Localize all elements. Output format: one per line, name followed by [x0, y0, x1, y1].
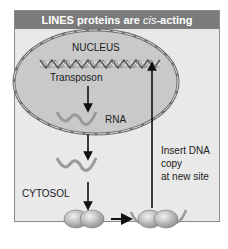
insert-label-line1: Insert DNA [161, 145, 210, 157]
dna-helix-icon [40, 60, 160, 68]
rna-cytosol-icon [57, 158, 96, 170]
ribosome-icon [64, 210, 104, 228]
cytosol-label: CYTOSOL [22, 188, 70, 200]
rna-label: RNA [105, 114, 126, 126]
nucleus-label: NUCLEUS [72, 42, 120, 54]
transposon-label: Transposon [50, 72, 102, 84]
insert-label-line3: at new site [161, 171, 209, 183]
ribosome-rna-complex-icon [131, 210, 186, 228]
insert-label-line2: copy [161, 158, 182, 170]
